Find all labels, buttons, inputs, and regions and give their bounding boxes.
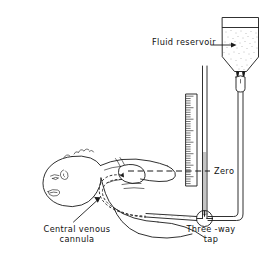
central-venous-cannula-label: Central venous cannula	[29, 224, 125, 244]
figure-root: Fluid reservoir Zero Three -way tap Cent…	[0, 0, 266, 265]
fluid-reservoir-label: Fluid reservoir	[152, 37, 216, 47]
central-venous-cannula-label-line2: cannula	[29, 234, 125, 244]
fluid-reservoir-bag	[223, 18, 259, 77]
manometer-ticks	[186, 96, 194, 183]
central-venous-cannula-label-line1: Central venous	[44, 224, 111, 234]
manometer-scale	[186, 94, 197, 186]
manometer-column-tube	[203, 66, 208, 219]
cannula-leader	[74, 197, 101, 222]
vertical-delivery-tube	[208, 92, 243, 221]
drip-chamber	[236, 76, 245, 92]
zero-label: Zero	[214, 166, 234, 176]
three-way-tap-label: Three -way tap	[181, 224, 241, 244]
horizontal-patient-tube	[146, 214, 197, 221]
three-way-tap-label-line2: tap	[181, 234, 241, 244]
three-way-tap-label-line1: Three -way	[186, 224, 235, 234]
